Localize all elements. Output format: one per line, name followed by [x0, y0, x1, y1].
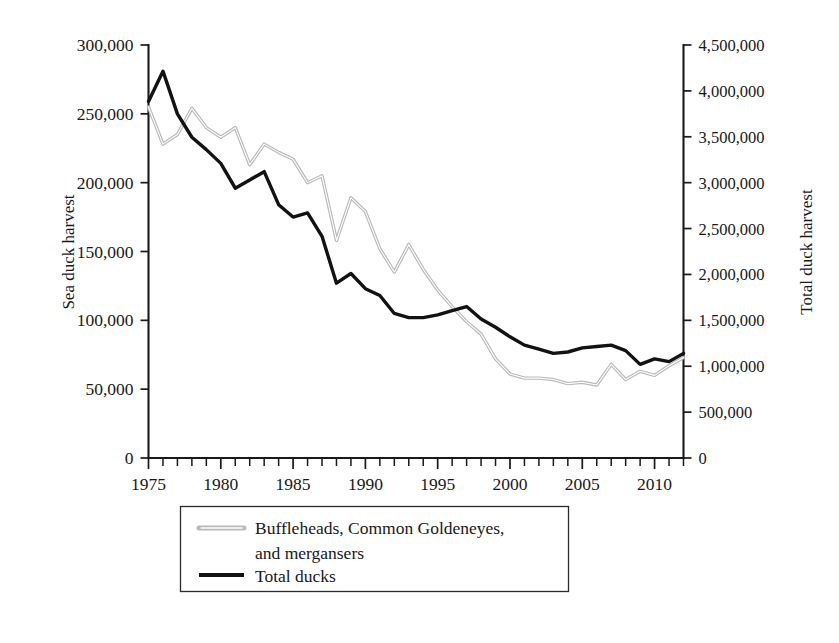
right-tick-label: 500,000: [699, 403, 753, 422]
legend-label-seaducks-line1: Buffleheads, Common Goldeneyes,: [255, 518, 505, 538]
series-path-seaducks: [149, 107, 684, 385]
left-tick-label: 50,000: [85, 379, 133, 399]
right-tick-label: 4,000,000: [699, 82, 765, 101]
left-tick-label: 200,000: [77, 173, 134, 193]
left-tick-label: 250,000: [77, 104, 134, 124]
x-tick-label: 1995: [420, 474, 455, 494]
right-tick-label: 2,000,000: [699, 265, 765, 284]
right-tick-label: 3,000,000: [699, 174, 765, 193]
series-path-total-ducks: [149, 71, 684, 364]
left-tick-label: 150,000: [77, 242, 134, 262]
left-tick-label: 0: [125, 448, 134, 468]
series-paths: [149, 71, 684, 385]
right-tick-label: 0: [699, 449, 707, 468]
x-tick-label: 2005: [565, 474, 600, 494]
chart-figure: 050,000100,000150,000200,000250,000300,0…: [0, 0, 839, 643]
legend-label-total-ducks: Total ducks: [255, 566, 336, 586]
x-tick-label: 2000: [492, 474, 527, 494]
legend-item-seaducks[interactable]: Buffleheads, Common Goldeneyes, and merg…: [199, 518, 505, 563]
right-tick-label: 1,500,000: [699, 311, 765, 330]
right-axis-ticks: 0500,0001,000,0001,500,0002,000,0002,500…: [684, 36, 765, 468]
legend-label-seaducks-line2: and mergansers: [255, 543, 364, 563]
left-tick-label: 300,000: [77, 35, 134, 55]
right-tick-label: 2,500,000: [699, 220, 765, 239]
x-axis-ticks: 19751980198519901995200020052010: [131, 458, 684, 494]
left-tick-label: 100,000: [77, 310, 134, 330]
legend-item-total-ducks[interactable]: Total ducks: [199, 566, 336, 586]
duck-harvest-line-chart: 050,000100,000150,000200,000250,000300,0…: [0, 0, 839, 643]
x-tick-label: 1980: [203, 474, 238, 494]
left-axis-title: Sea duck harvest: [59, 194, 78, 309]
x-tick-label: 1975: [131, 474, 166, 494]
right-axis-title: Total duck harvest: [797, 189, 816, 315]
chart-legend: Buffleheads, Common Goldeneyes, and merg…: [181, 507, 569, 592]
axis-frame: [149, 45, 684, 458]
right-tick-label: 4,500,000: [699, 36, 765, 55]
left-axis-ticks: 050,000100,000150,000200,000250,000300,0…: [77, 35, 149, 468]
x-tick-label: 1985: [276, 474, 311, 494]
x-tick-label: 2010: [637, 474, 672, 494]
right-tick-label: 1,000,000: [699, 357, 765, 376]
x-tick-label: 1990: [348, 474, 383, 494]
right-tick-label: 3,500,000: [699, 128, 765, 147]
series-path-seaducks-inner: [149, 107, 684, 385]
